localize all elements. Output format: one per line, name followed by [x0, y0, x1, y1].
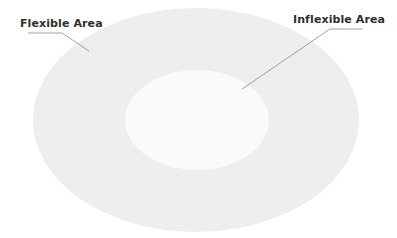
- concentric-area-diagram: [0, 0, 397, 238]
- inflexible-area-label: Inflexible Area: [293, 13, 385, 26]
- flexible-area-label: Flexible Area: [20, 17, 103, 30]
